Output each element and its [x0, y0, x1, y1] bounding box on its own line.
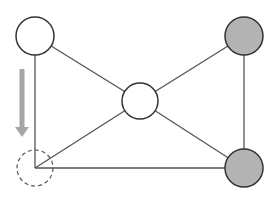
- nodes: [16, 17, 263, 187]
- node-top-left: [16, 17, 54, 55]
- graph-canvas: [0, 0, 279, 201]
- down-arrow-icon: [15, 69, 29, 137]
- graph-diagram: [0, 0, 279, 201]
- arrow-shaft: [20, 69, 25, 127]
- node-bottom-right: [225, 149, 263, 187]
- arrow-head: [15, 127, 29, 137]
- node-center: [122, 83, 158, 119]
- node-top-right: [225, 17, 263, 55]
